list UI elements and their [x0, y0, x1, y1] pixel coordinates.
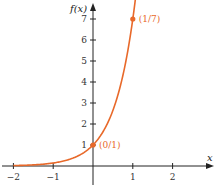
y-tick-label: 7	[81, 14, 87, 24]
data-point	[90, 142, 95, 147]
y-tick-label: 6	[81, 35, 87, 45]
x-tick-label: −2	[7, 172, 20, 182]
y-tick-label: 4	[81, 77, 87, 87]
y-ticks: 1234567	[81, 14, 96, 150]
y-tick-label: 1	[81, 140, 87, 150]
y-tick-label: 2	[81, 119, 87, 129]
point-label: (0/1)	[99, 140, 121, 150]
exponential-chart: −2−112 1234567 x f(x) (0/1)(1/7)	[0, 0, 218, 185]
point-label: (1/7)	[139, 14, 161, 24]
y-axis-arrow-icon	[90, 3, 96, 11]
y-tick-label: 5	[81, 56, 87, 66]
x-tick-label: 1	[130, 172, 136, 182]
data-point	[130, 16, 135, 21]
y-axis-label: f(x)	[69, 3, 87, 14]
x-axis-arrow-icon	[206, 163, 214, 169]
axes	[2, 3, 214, 185]
x-tick-label: −1	[47, 172, 60, 182]
x-tick-label: 2	[170, 172, 176, 182]
data-points: (0/1)(1/7)	[90, 14, 160, 150]
x-axis-label: x	[207, 152, 213, 163]
y-tick-label: 3	[81, 98, 87, 108]
